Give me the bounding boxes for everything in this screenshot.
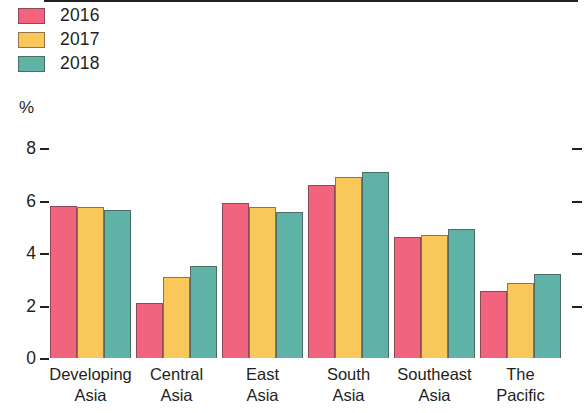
bar[interactable] bbox=[335, 177, 362, 358]
y-axis-tick-mark-right bbox=[572, 253, 582, 255]
bar[interactable] bbox=[534, 274, 561, 358]
bar[interactable] bbox=[480, 291, 507, 358]
bar[interactable] bbox=[136, 303, 163, 358]
y-axis-tick-mark-left bbox=[40, 148, 49, 150]
y-axis-tick-mark-left bbox=[40, 253, 49, 255]
bar[interactable] bbox=[190, 266, 217, 358]
y-axis-unit-label: % bbox=[19, 98, 34, 118]
bar[interactable] bbox=[448, 229, 475, 358]
y-axis-tick-mark-right bbox=[572, 306, 582, 308]
category-label-line1: Central bbox=[150, 365, 203, 383]
bar[interactable] bbox=[362, 172, 389, 358]
category-label-line2: Pacific bbox=[461, 385, 581, 406]
x-axis-category-label: ThePacific bbox=[461, 364, 581, 406]
bar[interactable] bbox=[50, 206, 77, 358]
y-axis-tick-mark-right bbox=[572, 201, 582, 203]
y-axis-tick-label: 4 bbox=[14, 243, 36, 264]
bar[interactable] bbox=[249, 207, 276, 358]
y-axis-tick-label: 6 bbox=[14, 190, 36, 211]
x-axis-baseline bbox=[44, 0, 578, 2]
y-axis-tick-mark-left bbox=[40, 358, 49, 360]
y-axis-tick-label: 2 bbox=[14, 295, 36, 316]
category-label-line1: South bbox=[327, 365, 370, 383]
bar[interactable] bbox=[77, 207, 104, 358]
bar[interactable] bbox=[308, 185, 335, 358]
category-label-line1: The bbox=[506, 365, 534, 383]
y-axis-tick-mark-left bbox=[40, 201, 49, 203]
bar[interactable] bbox=[222, 203, 249, 358]
y-axis-tick-mark-left bbox=[40, 306, 49, 308]
bar[interactable] bbox=[507, 283, 534, 358]
y-axis-tick-mark-right bbox=[572, 148, 582, 150]
bar[interactable] bbox=[394, 237, 421, 358]
bar[interactable] bbox=[276, 212, 303, 358]
bar[interactable] bbox=[421, 235, 448, 358]
category-label-line1: East bbox=[246, 365, 279, 383]
bar[interactable] bbox=[163, 277, 190, 358]
bar-chart-figure: 201620172018 % 02468DevelopingAsiaCentra… bbox=[0, 0, 588, 413]
bar[interactable] bbox=[104, 210, 131, 358]
plot-area: % 02468DevelopingAsiaCentralAsiaEastAsia… bbox=[0, 0, 588, 413]
y-axis-tick-label: 8 bbox=[14, 138, 36, 159]
